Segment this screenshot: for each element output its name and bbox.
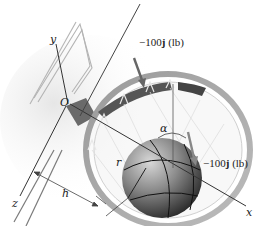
r-label: r [116, 156, 122, 169]
basketball [122, 138, 202, 218]
diagram-canvas: y O x z h r α −100j (lb) −100j (lb) [0, 0, 264, 226]
force-label-top: −100j (lb) [139, 36, 184, 49]
force-label-right: −100j (lb) [203, 157, 248, 170]
y-axis-label: y [49, 33, 57, 46]
x-axis-label: x [246, 206, 253, 219]
hoop-diagram: y O x z h r α −100j (lb) −100j (lb) [0, 0, 264, 226]
origin-label: O [60, 96, 69, 109]
z-axis-label: z [11, 197, 18, 210]
h-label: h [62, 187, 69, 200]
alpha-label: α [160, 122, 168, 135]
